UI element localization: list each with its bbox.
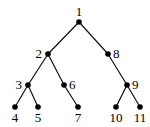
node-label-4: 4 xyxy=(12,110,19,125)
node-label-9: 9 xyxy=(132,77,139,92)
node-6 xyxy=(61,82,67,88)
node-11 xyxy=(137,104,143,110)
node-label-2: 2 xyxy=(36,46,43,61)
edge-2-6 xyxy=(48,54,64,85)
node-label-6: 6 xyxy=(69,77,76,92)
node-8 xyxy=(105,51,111,57)
node-label-1: 1 xyxy=(76,4,83,19)
node-label-7: 7 xyxy=(75,110,82,125)
node-label-5: 5 xyxy=(35,110,42,125)
nodes-group xyxy=(12,19,143,110)
edge-1-8 xyxy=(79,22,108,54)
node-7 xyxy=(75,104,81,110)
node-2 xyxy=(45,51,51,57)
node-label-3: 3 xyxy=(16,77,23,92)
tree-graph: 1234567891011 xyxy=(0,0,150,127)
node-label-8: 8 xyxy=(113,46,120,61)
edges-group xyxy=(15,22,140,107)
edge-1-2 xyxy=(48,22,79,54)
node-1 xyxy=(76,19,82,25)
node-label-11: 11 xyxy=(134,110,147,125)
edge-3-5 xyxy=(28,85,38,107)
node-3 xyxy=(25,82,31,88)
node-label-10: 10 xyxy=(110,110,123,125)
node-4 xyxy=(12,104,18,110)
node-9 xyxy=(124,82,130,88)
edge-9-10 xyxy=(116,85,127,107)
node-10 xyxy=(113,104,119,110)
node-5 xyxy=(35,104,41,110)
tree-diagram: 1234567891011 xyxy=(0,0,150,127)
